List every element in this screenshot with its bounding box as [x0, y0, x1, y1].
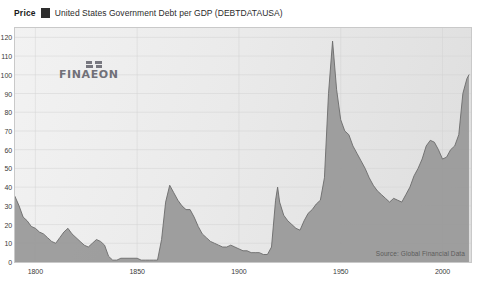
finaeon-watermark: FINAEON	[59, 61, 133, 83]
x-tick-label: 1800	[28, 268, 43, 275]
y-tick-label: 0	[0, 259, 12, 266]
y-tick-label: 80	[0, 109, 12, 116]
finaeon-wordmark: FINAEON	[59, 68, 119, 81]
legend-color-swatch	[41, 8, 50, 18]
plot-area: FINAEON Source: Global Financial Data	[14, 27, 472, 263]
y-tick-label: 10	[0, 240, 12, 247]
y-tick-label: 40	[0, 184, 12, 191]
y-tick-label: 20	[0, 221, 12, 228]
x-tick-label: 1950	[333, 268, 348, 275]
plot-inner: FINAEON Source: Global Financial Data	[15, 28, 471, 262]
legend-price-label: Price	[14, 8, 36, 18]
y-tick-label: 110	[0, 53, 12, 60]
y-tick-label: 90	[0, 90, 12, 97]
y-tick-label: 120	[0, 34, 12, 41]
y-tick-label: 30	[0, 202, 12, 209]
source-attribution: Source: Global Financial Data	[376, 250, 465, 257]
finaeon-squares-logo-icon	[86, 61, 102, 68]
y-tick-label: 70	[0, 127, 12, 134]
x-tick-label: 1850	[130, 268, 145, 275]
x-tick-label: 2000	[435, 268, 450, 275]
y-tick-label: 50	[0, 165, 12, 172]
y-tick-label: 100	[0, 71, 12, 78]
chart-legend: Price United States Government Debt per …	[14, 8, 283, 18]
x-tick-label: 1900	[231, 268, 246, 275]
y-tick-label: 60	[0, 146, 12, 153]
chart-container: Price United States Government Debt per …	[0, 0, 487, 289]
legend-series-label: United States Government Debt per GDP (D…	[55, 8, 283, 18]
